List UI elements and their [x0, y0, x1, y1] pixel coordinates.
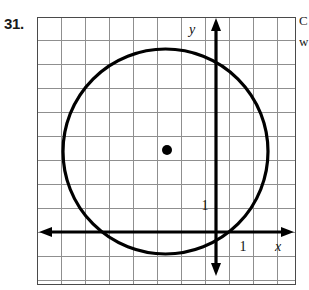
problem-number: 31.	[4, 16, 24, 32]
adjacent-column-text-line-2: w	[299, 31, 309, 52]
coordinate-grid-figure: y x 1 1	[37, 17, 296, 285]
x-axis-label: x	[274, 239, 282, 254]
figure-page: 31.	[0, 0, 309, 290]
y-axis-label: y	[187, 22, 196, 37]
x-axis-unit-label: 1	[240, 239, 247, 254]
adjacent-column-text: C w	[299, 10, 309, 52]
y-axis-unit-label: 1	[202, 198, 209, 213]
circle-center-point	[162, 145, 172, 155]
adjacent-column-text-line-1: C	[299, 10, 309, 31]
graph-svg: y x 1 1	[37, 17, 296, 285]
